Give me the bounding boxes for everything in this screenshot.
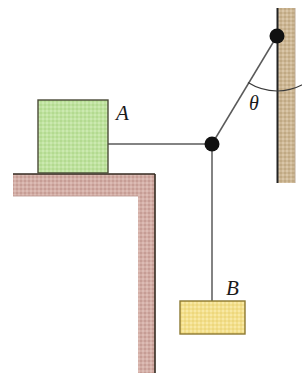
theta-angle-label: θ [249,92,259,114]
ledge-support [13,174,155,373]
ledge-body [13,174,155,373]
block-a [38,100,108,173]
block-b-label: B [226,276,239,300]
cord-junction-knot [205,137,220,152]
physics-diagram-figure: A B θ [0,0,302,386]
diagram-canvas: A B θ [0,0,302,386]
block-b [180,301,245,334]
block-b-body [180,301,245,334]
block-a-body [38,100,108,173]
block-a-label: A [114,101,129,125]
cord-group [108,36,277,302]
wall-anchor-point [270,29,285,44]
theta-arc-left [248,83,277,91]
